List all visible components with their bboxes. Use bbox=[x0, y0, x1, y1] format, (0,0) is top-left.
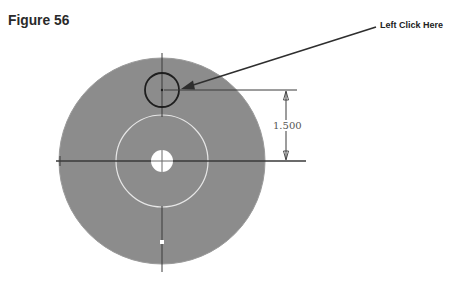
cad-drawing bbox=[0, 0, 458, 292]
callout-leader-line bbox=[190, 27, 376, 86]
point-marker bbox=[160, 240, 164, 244]
callout-label: Left Click Here bbox=[380, 20, 443, 30]
selected-circle-center bbox=[161, 89, 163, 91]
dimension-label: 1.500 bbox=[272, 120, 303, 131]
